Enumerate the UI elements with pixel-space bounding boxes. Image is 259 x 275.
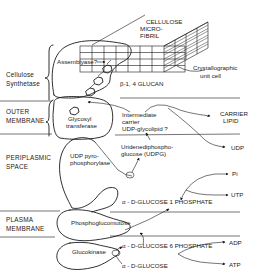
cellulose-microfibril: CELLULOSE MICRO- FIBRIL Crystallographic… [80,15,237,87]
label-glucokinase: Glucokinase [72,248,107,255]
label-carrier-3: UDP-glycolipid ? [122,125,168,132]
svg-text:carrier: carrier [122,118,140,125]
svg-text:PLASMA: PLASMA [6,216,34,223]
svg-text:α - D-GLUCOSE: α - D-GLUCOSE [122,262,168,269]
label-glucose: α - D-GLUCOSE [122,262,168,269]
svg-text:LIPID: LIPID [223,117,239,124]
svg-text:Glucokinase: Glucokinase [72,248,107,255]
svg-text:phosphorylase: phosphorylase [70,159,111,166]
svg-text:UDP-glycolipid ?: UDP-glycolipid ? [122,125,168,132]
svg-text:UDP pyro-: UDP pyro- [70,152,99,159]
svg-text:ADP: ADP [229,239,242,246]
svg-text:FIBRIL: FIBRIL [140,32,160,39]
label-udpg-1: Uridenediphospho- [121,143,173,150]
label-carrier-2: carrier [122,118,140,125]
label-outer-membrane-1: OUTER [6,108,30,115]
svg-text:Synthetase: Synthetase [6,80,40,88]
svg-text:ATP: ATP [229,261,241,268]
label-unit-cell-2: unit cell [200,72,221,79]
label-udp-pyro-2: phosphorylase [70,159,111,166]
product-labels: CARRIER LIPID UDP Pi UTP ADP ATP [220,110,248,268]
svg-text:SPACE: SPACE [6,163,28,170]
label-udpg-2: glucose (UDPG) [121,150,166,157]
svg-text:Pi: Pi [232,170,238,177]
svg-text:MEMBRANE: MEMBRANE [6,117,45,124]
label-carrier-1: Intermediate [122,111,157,118]
label-udp: UDP [231,144,244,151]
label-phosphoglucomutase: Phosphoglucomutose [71,219,131,226]
svg-text:Intermediate: Intermediate [122,111,157,118]
label-assemblyase: Assemblyase? [57,58,98,65]
label-glucan: β-1, 4 GLUCAN [120,80,163,87]
label-periplasmic-1: PERIPLASMIC [6,154,51,161]
svg-text:Cellulose: Cellulose [6,71,34,78]
svg-text:MICRO-: MICRO- [140,25,163,32]
label-cellulose-synthetase-2: Synthetase [6,80,40,88]
label-unit-cell-1: Crystallographic [193,64,237,71]
svg-text:α - D-GLUCOSE 1 PHOSPHATE: α - D-GLUCOSE 1 PHOSPHATE [122,198,212,205]
svg-text:Crystallographic: Crystallographic [193,64,237,71]
label-glycosyl-1: Glycosyl [68,115,91,122]
svg-text:OUTER: OUTER [6,108,30,115]
svg-text:Glycosyl: Glycosyl [68,115,91,122]
svg-text:Phosphoglucomutose: Phosphoglucomutose [71,219,131,226]
label-glycosyl-2: transferase [66,122,98,129]
label-atp: ATP [229,261,241,268]
label-microfibril-1: CELLULOSE [146,18,182,25]
label-microfibril-3: FIBRIL [140,32,160,39]
svg-text:MEMBRANE: MEMBRANE [6,225,45,232]
label-cellulose-synthetase-1: Cellulose [6,71,34,78]
label-carrier-lipid-2: LIPID [223,117,239,124]
label-g1p: α - D-GLUCOSE 1 PHOSPHATE [122,198,212,205]
label-plasma-membrane-1: PLASMA [6,216,34,223]
svg-text:transferase: transferase [66,122,98,129]
svg-text:UDP: UDP [231,144,244,151]
label-utp: UTP [231,191,243,198]
svg-text:PERIPLASMIC: PERIPLASMIC [6,154,51,161]
label-plasma-membrane-2: MEMBRANE [6,225,45,232]
region-labels: Cellulose Synthetase OUTER MEMBRANE PERI… [6,71,51,232]
svg-text:UTP: UTP [231,191,243,198]
svg-text:glucose (UDPG): glucose (UDPG) [121,150,166,157]
label-pi: Pi [232,170,238,177]
svg-text:β-1, 4 GLUCAN: β-1, 4 GLUCAN [120,80,163,87]
svg-text:Uridenediphospho-: Uridenediphospho- [121,143,173,150]
label-udp-pyro-1: UDP pyro- [70,152,99,159]
enzyme-labels: Assemblyase? Glycosyl transferase UDP py… [57,58,131,255]
svg-text:CARRIER: CARRIER [220,110,248,117]
svg-text:unit cell: unit cell [200,72,221,79]
label-carrier-lipid-1: CARRIER [220,110,248,117]
label-outer-membrane-2: MEMBRANE [6,117,45,124]
cellulose-biosynthesis-diagram: Cellulose Synthetase OUTER MEMBRANE PERI… [0,0,259,275]
label-adp: ADP [229,239,242,246]
svg-text:Assemblyase?: Assemblyase? [57,58,98,65]
glucose-monomers [70,60,112,115]
label-microfibril-2: MICRO- [140,25,163,32]
label-periplasmic-2: SPACE [6,163,28,170]
region-braces [45,45,53,136]
svg-text:CELLULOSE: CELLULOSE [146,18,182,25]
